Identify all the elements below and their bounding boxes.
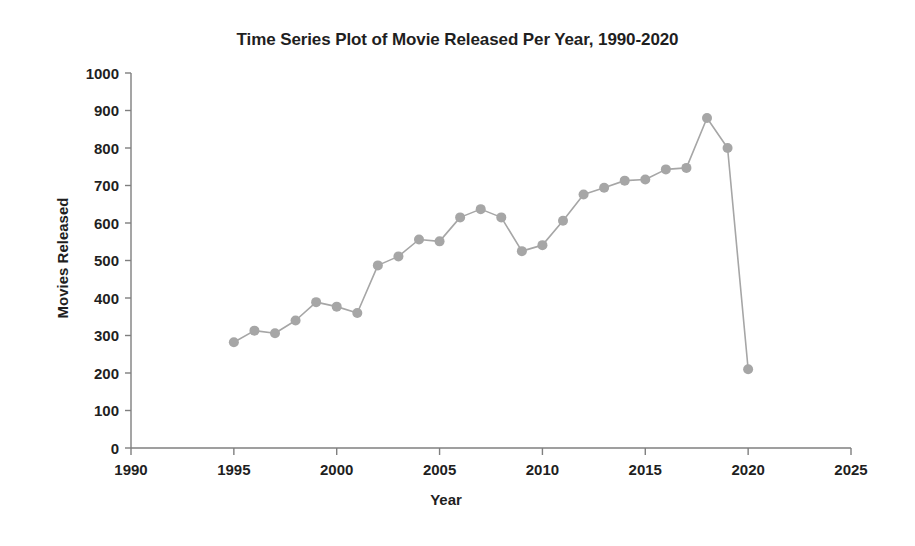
data-point: 2002: 487 — [373, 260, 383, 270]
y-tick-label: 400 — [94, 290, 119, 307]
data-series: 1995: 2821996: 3131997: 3061998: 3401999… — [229, 113, 753, 374]
data-point: 2020: 210 — [743, 364, 753, 374]
y-tick-label: 100 — [94, 402, 119, 419]
data-point: 2007: 637 — [476, 204, 486, 214]
data-point: 2004: 556 — [414, 235, 424, 245]
data-point: 2013: 694 — [599, 183, 609, 193]
chart-figure: Time Series Plot of Movie Released Per Y… — [0, 0, 915, 546]
y-tick-label: 700 — [94, 177, 119, 194]
x-tick-label: 2000 — [320, 461, 353, 478]
x-tick-label: 1990 — [114, 461, 147, 478]
data-point: 2011: 606 — [558, 216, 568, 226]
y-tick-label: 900 — [94, 102, 119, 119]
x-tick-label: 1995 — [217, 461, 250, 478]
y-tick-label: 0 — [111, 440, 119, 457]
data-point: 2015: 716 — [640, 175, 650, 185]
y-tick-label: 300 — [94, 327, 119, 344]
data-point: 1995: 282 — [229, 337, 239, 347]
y-axis: 01002003004005006007008009001000 — [86, 65, 131, 457]
data-point: 1999: 389 — [311, 297, 321, 307]
data-point: 2003: 511 — [393, 251, 403, 261]
y-tick-label: 1000 — [86, 65, 119, 82]
y-axis-title: Movies Released — [54, 198, 71, 319]
y-tick-label: 500 — [94, 252, 119, 269]
y-tick-label: 800 — [94, 140, 119, 157]
data-point: 2009: 525 — [517, 246, 527, 256]
data-point: 1998: 340 — [291, 316, 301, 326]
y-tick-label: 600 — [94, 215, 119, 232]
data-point: 2001: 360 — [352, 308, 362, 318]
x-tick-label: 2020 — [731, 461, 764, 478]
series-line — [234, 118, 748, 369]
data-point: 2005: 551 — [435, 236, 445, 246]
data-point: 2012: 676 — [579, 190, 589, 200]
data-point: 2019: 800 — [723, 143, 733, 153]
x-axis-title: Year — [430, 491, 462, 508]
data-point: 2008: 615 — [496, 212, 506, 222]
x-tick-label: 2005 — [423, 461, 456, 478]
x-tick-label: 2015 — [629, 461, 662, 478]
x-axis: 19901995200020052010201520202025 — [114, 448, 867, 478]
plot-area: 01002003004005006007008009001000 1990199… — [0, 0, 915, 546]
data-point: 2000: 377 — [332, 302, 342, 312]
x-tick-label: 2010 — [526, 461, 559, 478]
y-tick-label: 200 — [94, 365, 119, 382]
data-point: 2017: 747 — [681, 163, 691, 173]
data-point: 2010: 541 — [537, 240, 547, 250]
data-point: 2006: 615 — [455, 212, 465, 222]
data-point: 1996: 313 — [249, 326, 259, 336]
data-point: 2018: 880 — [702, 113, 712, 123]
data-point: 2014: 713 — [620, 176, 630, 186]
data-point: 2016: 743 — [661, 164, 671, 174]
x-tick-label: 2025 — [834, 461, 867, 478]
data-point: 1997: 306 — [270, 328, 280, 338]
